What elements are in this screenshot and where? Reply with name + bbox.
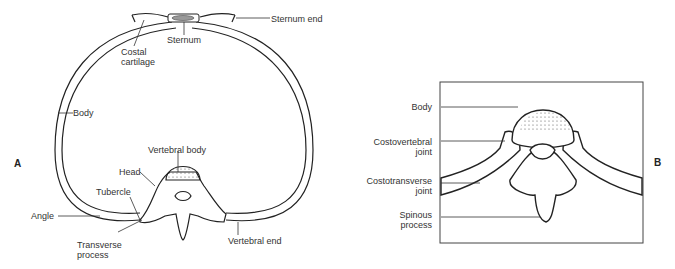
label-spinous-2: process [400,220,432,230]
label-spinous-1: Spinous [399,210,432,220]
label-sternum: Sternum [167,35,201,45]
rib-diagram-drawing [0,0,675,269]
label-transverse-process-1: Transverse [77,240,122,250]
label-angle: Angle [31,211,54,221]
label-transverse-process-2: process [77,250,109,260]
panel-b-letter: B [654,157,661,168]
label-costovertebral-2: joint [415,147,432,157]
panel-a-letter: A [14,158,21,169]
label-costotransverse-1: Costotransverse [366,176,432,186]
label-costotransverse-2: joint [415,186,432,196]
label-tubercle: Tubercle [96,187,131,197]
label-costovertebral-1: Costovertebral [373,137,432,147]
label-body: Body [73,108,94,118]
label-b-body: Body [411,102,432,112]
label-vertebral-end: Vertebral end [228,236,282,246]
label-costal-cartilage-1: Costal [121,47,147,57]
label-costal-cartilage-2: cartilage [121,57,155,67]
label-head: Head [119,167,141,177]
label-sternum-end: Sternum end [271,14,323,24]
vertebra-a [140,167,226,241]
label-vertebral-body: Vertebral body [148,145,206,155]
